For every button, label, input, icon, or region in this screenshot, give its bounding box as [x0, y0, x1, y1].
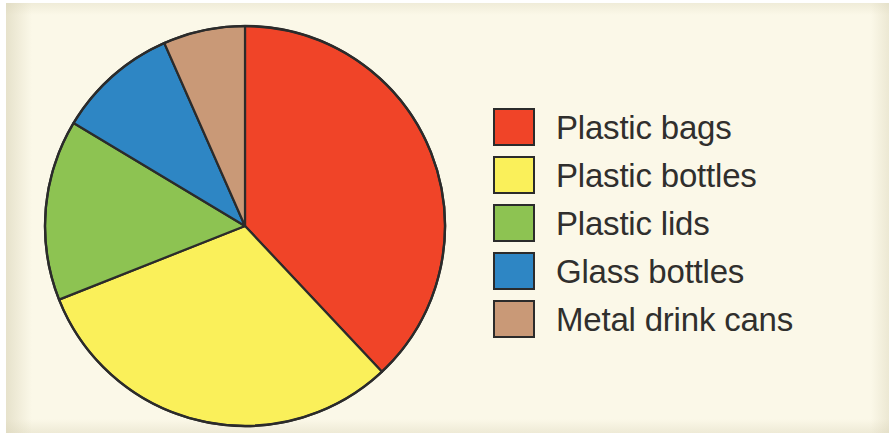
pie-chart-svg — [40, 21, 450, 431]
pie-slice-group — [45, 26, 445, 426]
legend-color-swatch — [493, 300, 535, 338]
legend-item-label: Plastic bags — [556, 111, 732, 144]
pie-chart-area — [40, 21, 450, 431]
chart-legend: Plastic bagsPlastic bottlesPlastic lidsG… — [493, 103, 873, 343]
legend-color-swatch — [493, 204, 535, 242]
legend-item-label: Glass bottles — [556, 255, 744, 288]
legend-color-swatch — [493, 252, 535, 290]
pie-chart-figure: Plastic bagsPlastic bottlesPlastic lidsG… — [0, 0, 896, 441]
legend-item-label: Plastic lids — [556, 207, 709, 240]
legend-item: Glass bottles — [493, 247, 873, 295]
legend-color-swatch — [493, 156, 535, 194]
legend-item: Plastic lids — [493, 199, 873, 247]
legend-item: Metal drink cans — [493, 295, 873, 343]
legend-item-label: Plastic bottles — [556, 159, 757, 192]
legend-color-swatch — [493, 108, 535, 146]
legend-item: Plastic bags — [493, 103, 873, 151]
legend-item-label: Metal drink cans — [556, 303, 793, 336]
legend-item: Plastic bottles — [493, 151, 873, 199]
